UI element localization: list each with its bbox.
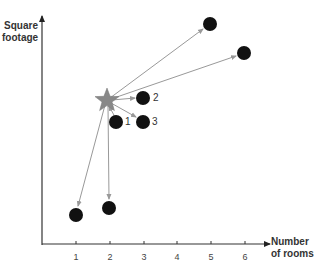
point-neighbor-1	[109, 115, 123, 129]
x-axis-label-line2: of rooms	[271, 248, 321, 260]
arrow-to-bottom-left-a	[78, 105, 105, 206]
arrow-to-top-right-b	[111, 56, 236, 99]
point-bottom-left-a	[69, 208, 83, 222]
x-tick-label: 2	[104, 252, 116, 262]
point-neighbor-2	[136, 91, 150, 105]
point-neighbor-3	[136, 115, 150, 129]
arrow-to-bottom-left-b	[108, 106, 109, 199]
y-axis-label: Square footage	[2, 20, 38, 44]
neighbor-label-1: 1	[125, 116, 131, 127]
point-top-right-a	[203, 17, 217, 31]
point-top-right-b	[237, 46, 251, 60]
data-points	[69, 17, 251, 222]
x-tick-label: 3	[138, 252, 150, 262]
x-axis-label-line1: Number	[271, 236, 321, 248]
arrow-to-neighbor-3	[111, 103, 136, 117]
y-axis-label-line2: footage	[2, 32, 38, 44]
arrow-to-top-right-a	[110, 29, 203, 98]
x-tick-label: 1	[70, 252, 82, 262]
neighbor-label-2: 2	[153, 92, 159, 103]
x-tick-label: 5	[205, 252, 217, 262]
y-axis-label-line1: Square	[2, 20, 38, 32]
x-tick-label: 4	[171, 252, 183, 262]
x-axis-label: Number of rooms	[271, 236, 321, 260]
point-bottom-left-b	[102, 201, 116, 215]
x-tick-label: 6	[239, 252, 251, 262]
star-icon	[95, 88, 119, 111]
neighbor-label-3: 3	[152, 116, 158, 127]
